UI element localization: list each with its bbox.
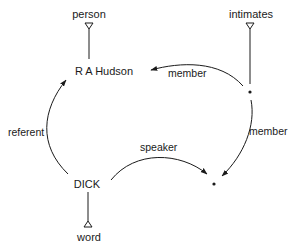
node-dot-top (248, 90, 251, 93)
referent-arrow (47, 80, 68, 174)
isa-link-person (85, 23, 93, 59)
node-word: word (77, 232, 101, 243)
node-dot-bottom (212, 182, 215, 185)
isa-triangle-icon (84, 221, 92, 227)
node-intimates: intimates (229, 9, 273, 20)
isa-triangle-icon (246, 23, 254, 29)
edge-label-member-right: member (249, 126, 288, 137)
edge-label-speaker: speaker (140, 142, 177, 153)
edge-label-referent: referent (8, 127, 44, 138)
speaker-arrow (111, 157, 207, 180)
node-dick: DICK (74, 179, 100, 190)
isa-triangle-icon (85, 23, 93, 29)
node-r-a-hudson: R A Hudson (75, 66, 133, 77)
member-arrow-right (222, 100, 252, 176)
edge-label-member-top: member (168, 68, 207, 79)
isa-link-intimates (246, 23, 254, 84)
node-person: person (72, 9, 106, 20)
isa-link-word (84, 192, 92, 227)
